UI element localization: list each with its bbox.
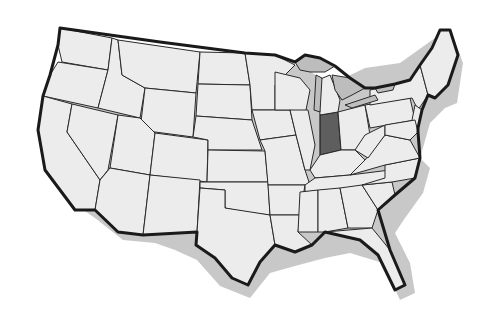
state-indiana-highlighted: [320, 112, 341, 155]
state-new-mexico: [143, 175, 200, 235]
state-north-dakota: [198, 52, 250, 85]
state-mississippi: [298, 190, 318, 232]
state-arizona: [95, 168, 150, 235]
state-colorado: [150, 133, 208, 182]
state-kansas: [207, 150, 268, 182]
state-south-dakota: [196, 84, 252, 120]
us-map: [0, 0, 489, 323]
lake-michigan: [314, 75, 322, 112]
